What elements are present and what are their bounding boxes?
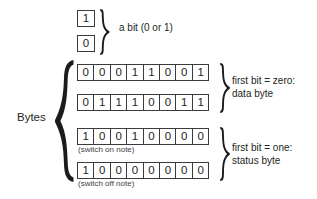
bit-cell: 0 (192, 128, 210, 145)
bit-cell: 0 (93, 64, 111, 81)
bit-cell: 1 (126, 94, 144, 111)
bit-cell: 0 (143, 94, 161, 111)
bit-cell-zero: 0 (77, 35, 95, 52)
bit-cell: 1 (126, 64, 144, 81)
bit-group-label: a bit (0 or 1) (119, 22, 173, 35)
byte-row: 1 0 0 0 0 0 0 0 (77, 162, 208, 179)
bytes-group-label: Bytes (17, 110, 46, 124)
bit-cell: 0 (175, 64, 193, 81)
bit-cell: 0 (192, 162, 210, 179)
bit-cell: 0 (93, 162, 111, 179)
bit-cell: 0 (77, 64, 95, 81)
bit-cell: 1 (77, 128, 95, 145)
right-curly-brace-icon-bit (99, 8, 113, 56)
status-byte-annotation: first bit = one: status byte (232, 142, 292, 167)
bit-cell: 1 (110, 94, 128, 111)
byte-row: 1 0 0 1 0 0 0 0 (77, 128, 208, 145)
bit-cell: 1 (126, 128, 144, 145)
bit-cell: 1 (93, 94, 111, 111)
data-byte-annotation: first bit = zero: data byte (232, 75, 295, 100)
right-curly-brace-icon-status-byte (219, 126, 233, 182)
annotation-line-2: status byte (232, 155, 292, 168)
bit-cell: 0 (93, 128, 111, 145)
left-curly-brace-icon-bytes (53, 59, 75, 183)
bit-cell: 0 (110, 64, 128, 81)
bit-cell: 0 (159, 64, 177, 81)
status-byte-2-caption: (switch off note) (78, 179, 134, 189)
byte-row: 0 1 1 1 0 0 1 1 (77, 94, 208, 111)
bit-cell: 0 (110, 162, 128, 179)
bit-cell: 0 (143, 162, 161, 179)
annotation-line-2: data byte (232, 88, 295, 101)
bit-cell: 0 (159, 162, 177, 179)
bit-cell: 0 (77, 94, 95, 111)
bit-cell: 0 (126, 162, 144, 179)
bit-cell: 0 (159, 128, 177, 145)
bit-cell: 0 (143, 128, 161, 145)
bit-cell: 0 (175, 162, 193, 179)
bit-cell: 0 (110, 128, 128, 145)
bit-cell-one: 1 (77, 10, 95, 27)
bit-cell: 0 (159, 94, 177, 111)
status-byte-1-caption: (switch on note) (78, 145, 134, 155)
bit-cell: 1 (77, 162, 95, 179)
bit-cell: 1 (192, 94, 210, 111)
annotation-line-1: first bit = one: (232, 142, 292, 155)
byte-row: 0 0 0 1 1 0 0 1 (77, 64, 208, 81)
bit-cell: 0 (175, 128, 193, 145)
bit-cell: 1 (143, 64, 161, 81)
midi-byte-diagram: 1 0 a bit (0 or 1) Bytes 0 0 0 1 1 0 0 1… (0, 0, 317, 199)
annotation-line-1: first bit = zero: (232, 75, 295, 88)
bit-cell: 1 (192, 64, 210, 81)
right-curly-brace-icon-data-byte (219, 62, 233, 114)
bit-cell: 1 (175, 94, 193, 111)
